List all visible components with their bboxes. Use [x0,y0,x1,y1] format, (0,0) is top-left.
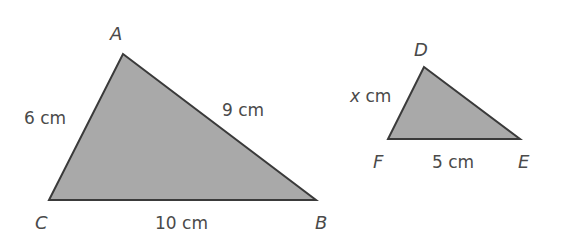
triangle-abc: A C B 6 cm 9 cm 10 cm [24,23,327,233]
vertex-e-label: E [518,151,530,172]
side-fe-label: 5 cm [432,152,474,172]
similar-triangles-diagram: A C B 6 cm 9 cm 10 cm D F E x cm 5 cm [0,0,561,243]
side-ab-label: 9 cm [222,100,264,120]
triangle-def: D F E x cm 5 cm [349,39,530,172]
side-cb-label: 10 cm [155,213,208,233]
vertex-c-label: C [35,212,48,233]
side-df-label: x cm [349,86,391,106]
vertex-d-label: D [414,39,428,60]
side-ac-label: 6 cm [24,108,66,128]
side-df-unit: cm [360,86,391,106]
vertex-a-label: A [109,23,122,44]
triangle-abc-shape [49,54,316,200]
vertex-f-label: F [373,151,384,172]
vertex-b-label: B [315,212,327,233]
triangle-def-shape [388,67,520,139]
